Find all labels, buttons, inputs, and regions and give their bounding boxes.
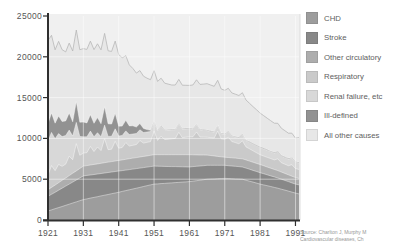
source-line-1: Source: Charlton J, Murphy M — [300, 229, 395, 236]
legend-item: Other circulatory — [306, 51, 394, 63]
legend-item: Renal failure, etc — [306, 90, 394, 102]
legend-swatch — [306, 110, 318, 122]
y-tick-label: 10000 — [0, 133, 42, 143]
x-tick-label: 1961 — [172, 228, 206, 238]
x-tick-label: 1981 — [243, 228, 277, 238]
legend-item: CHD — [306, 12, 394, 24]
legend-label: All other causes — [324, 131, 379, 140]
y-tick-label: 5000 — [0, 174, 42, 184]
legend-label: Respiratory — [324, 72, 364, 81]
legend-label: Renal failure, etc — [324, 92, 383, 101]
legend-swatch — [306, 51, 318, 63]
legend-swatch — [306, 12, 318, 24]
x-tick-label: 1971 — [208, 228, 242, 238]
legend-label: CHD — [324, 14, 341, 23]
legend-label: Other circulatory — [324, 53, 381, 62]
legend-swatch — [306, 71, 318, 83]
legend-item: All other causes — [306, 129, 394, 141]
x-tick-label: 1941 — [102, 228, 136, 238]
x-tick-label: 1931 — [66, 228, 100, 238]
y-tick-label: 20000 — [0, 52, 42, 62]
source-line-2: Cardiovascular diseases, Ch — [300, 236, 395, 243]
chart-legend: CHDStrokeOther circulatoryRespiratoryRen… — [306, 12, 394, 149]
y-tick-label: 15000 — [0, 93, 42, 103]
chart-figure: 0500010000150002000025000 19211931194119… — [0, 0, 395, 248]
y-tick-label: 0 — [0, 215, 42, 225]
legend-swatch — [306, 32, 318, 44]
legend-swatch — [306, 90, 318, 102]
x-tick-label: 1951 — [137, 228, 171, 238]
source-note: Source: Charlton J, Murphy M Cardiovascu… — [300, 229, 395, 243]
x-tick-label: 1921 — [31, 228, 65, 238]
legend-item: Ill-defined — [306, 110, 394, 122]
legend-label: Ill-defined — [324, 111, 358, 120]
y-tick-label: 25000 — [0, 11, 42, 21]
legend-swatch — [306, 129, 318, 141]
legend-item: Respiratory — [306, 71, 394, 83]
legend-label: Stroke — [324, 33, 347, 42]
legend-item: Stroke — [306, 32, 394, 44]
